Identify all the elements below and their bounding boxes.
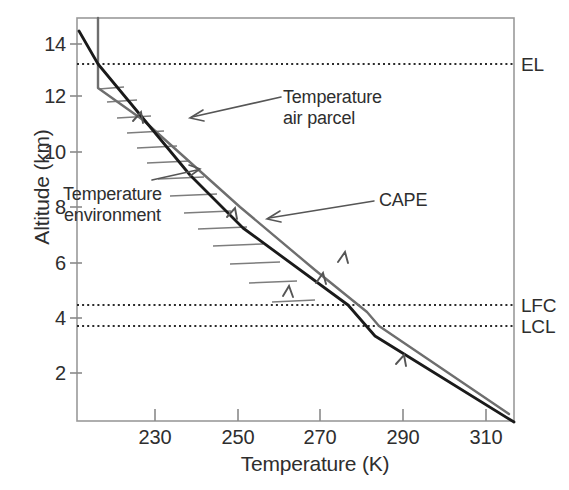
- el-level-label: EL: [521, 54, 544, 76]
- x-axis-ticks: [155, 409, 486, 421]
- parcel-direction-arrows: [133, 112, 406, 366]
- x-tick-label-250: 250: [211, 426, 265, 449]
- lfc-level-label: LFC: [521, 295, 556, 317]
- parcel-annotation: Temperature air parcel: [283, 87, 433, 129]
- parcel-annotation-line2: air parcel: [283, 108, 433, 129]
- x-tick-label-270: 270: [293, 426, 347, 449]
- x-tick-label-230: 230: [128, 426, 182, 449]
- y-tick-label-12: 12: [19, 85, 66, 108]
- x-tick-label-290: 290: [376, 426, 430, 449]
- parcel-annotation-line1: Temperature: [283, 87, 433, 108]
- chart-canvas: [0, 0, 569, 490]
- x-tick-label-310: 310: [459, 426, 513, 449]
- environment-annotation-line2: environment: [25, 205, 200, 226]
- y-tick-label-14: 14: [19, 33, 66, 56]
- cape-skewt-figure: 2 4 6 8 10 12 14 230 250 270 290 310 Tem…: [0, 0, 569, 490]
- parcel-leader-line: [192, 97, 281, 117]
- y-tick-label-2: 2: [30, 362, 66, 385]
- lcl-level-label: LCL: [521, 316, 555, 338]
- cape-leader-line: [269, 201, 374, 218]
- environment-annotation: Temperature environment: [25, 184, 200, 226]
- x-axis-title: Temperature (K): [205, 452, 425, 476]
- y-tick-label-4: 4: [30, 307, 66, 330]
- environment-annotation-line1: Temperature: [25, 184, 200, 205]
- cape-annotation: CAPE: [379, 190, 469, 211]
